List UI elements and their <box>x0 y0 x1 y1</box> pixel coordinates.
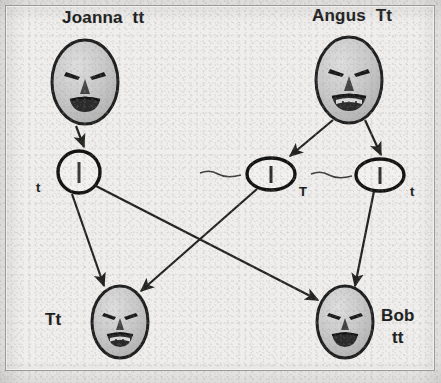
diagram-artwork <box>0 0 441 383</box>
child-left-genotype-label: Tt <box>45 310 61 330</box>
gamete-angus-T-label: T <box>299 184 307 199</box>
arrow-angus-to-gameteT <box>290 120 333 156</box>
arrow-angus-to-gamete-t <box>365 120 381 155</box>
child-bob-figure <box>317 286 373 358</box>
parent-angus-figure <box>316 37 382 123</box>
gamete-angus-t-label: t <box>410 184 415 199</box>
arrow-joanna-to-gamete <box>76 126 84 147</box>
parent-joanna-figure <box>52 40 118 124</box>
parent-joanna-label: Joanna tt <box>62 8 144 28</box>
genetics-diagram-canvas: Joanna tt Angus Tt t T t Tt Bob tt <box>0 0 441 383</box>
arrow-gameteT-to-child-left <box>141 189 257 291</box>
child-left-figure <box>92 286 148 358</box>
gamete-angus-T-shape <box>200 158 295 190</box>
gamete-joanna-t-shape <box>58 151 100 193</box>
gamete-joanna-t-label: t <box>36 180 41 195</box>
gamete-angus-t-shape <box>311 159 404 191</box>
arrow-gamete-joanna-to-bob <box>96 186 318 300</box>
child-bob-genotype-label: tt <box>392 328 404 348</box>
arrow-gamete-t-to-bob <box>355 191 374 286</box>
arrow-gamete-joanna-to-child-left <box>72 194 104 286</box>
parent-angus-label: Angus Tt <box>312 6 392 26</box>
child-bob-name-label: Bob <box>381 306 415 326</box>
